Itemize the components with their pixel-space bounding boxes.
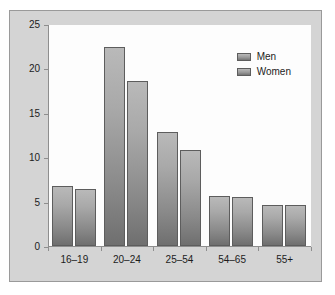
bar-men-4 [262,205,283,246]
x-axis-tick-mark [311,247,312,251]
bar-women-2 [180,150,201,246]
bar-men-0 [52,186,73,246]
bar-women-1 [127,81,148,246]
x-axis-tick-label: 16–19 [60,253,88,266]
bar-group [101,25,153,246]
y-axis: 0510152025 [10,25,48,247]
bar-women-3 [232,197,253,246]
legend-entry-women: Women [237,66,291,78]
x-axis-tick-mark [206,247,207,251]
bar-women-0 [75,189,96,246]
x-axis-tick-mark [153,247,154,251]
y-axis-tick-label: 0 [34,240,40,253]
y-axis-tick-label: 5 [34,196,40,209]
bar-men-1 [104,47,125,246]
x-axis-labels: 16–1920–2425–5454–6555+ [48,253,311,267]
y-axis-tick-label: 10 [29,151,40,164]
legend-swatch-icon [237,53,251,61]
x-axis-tick-label: 25–54 [166,253,194,266]
bar-men-2 [157,132,178,246]
x-axis-tick-mark [48,247,49,251]
bar-chart-figure: 0510152025 MenWomen 16–1920–2425–5454–65… [9,10,322,282]
x-axis-tick-mark [258,247,259,251]
y-axis-tick-label: 15 [29,107,40,120]
plot-area: MenWomen [48,25,311,247]
legend-label: Men [257,51,276,63]
chart-legend: MenWomen [237,51,291,81]
y-axis-tick-label: 25 [29,18,40,31]
x-axis-tick-label: 55+ [276,253,293,266]
x-axis-tick-label: 20–24 [113,253,141,266]
y-axis-tick-label: 20 [29,62,40,75]
legend-entry-men: Men [237,51,291,63]
bar-men-3 [209,196,230,246]
bar-group [154,25,206,246]
legend-swatch-icon [237,68,251,76]
legend-label: Women [257,66,291,78]
bar-women-4 [285,205,306,246]
x-axis-tick-mark [101,247,102,251]
bar-group [49,25,101,246]
x-axis-tick-label: 54–65 [218,253,246,266]
